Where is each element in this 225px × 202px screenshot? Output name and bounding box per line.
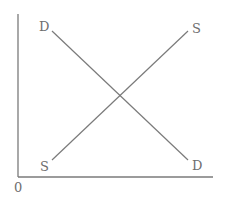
- demand-label-bottom: D: [192, 159, 202, 172]
- supply-label-bottom: S: [40, 160, 49, 173]
- supply-label-top: S: [192, 22, 201, 35]
- demand-label-top: D: [39, 20, 49, 33]
- origin-label: 0: [14, 181, 22, 194]
